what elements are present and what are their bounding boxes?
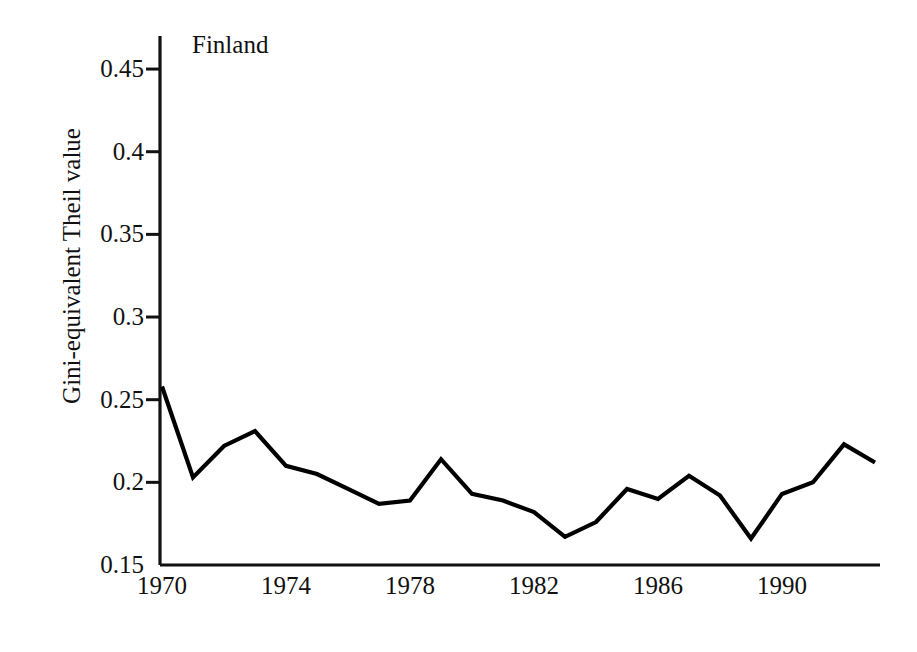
axes-lines (160, 36, 880, 565)
data-series-line (162, 386, 875, 538)
chart-plot-area (0, 0, 917, 652)
y-axis-ticks (146, 69, 160, 482)
chart-figure: Gini-equivalent Theil value Finland 0.15… (0, 0, 917, 652)
